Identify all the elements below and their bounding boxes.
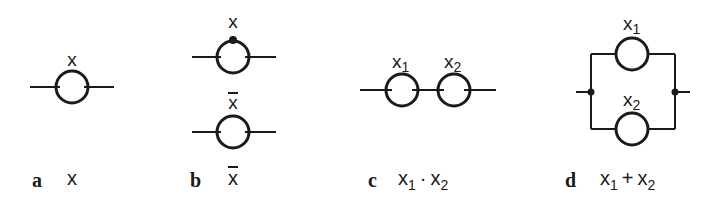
contact-label: x: [228, 92, 238, 113]
contact-x-negated: [217, 116, 249, 148]
caption-a: a: [32, 169, 42, 191]
expression-a: x: [67, 167, 77, 189]
panel-c: x1 x2 c x1·x2: [360, 51, 496, 193]
expression-c: x1·x2: [398, 167, 448, 193]
marker-dot: [229, 36, 237, 44]
junction-left: [588, 89, 595, 96]
contact-x: [217, 41, 249, 73]
panel-b: x x b x: [190, 11, 276, 191]
caption-c: c: [368, 169, 377, 191]
contact-label-x2: x2: [444, 51, 462, 75]
contact-label-x1: x1: [392, 51, 410, 75]
contact-x1: [616, 38, 648, 70]
switching-circuits-diagram: x a x x x b x x1 x2 c x1·x2: [0, 0, 720, 207]
contact-label: x: [67, 49, 77, 70]
panel-d: x1 x2 d x1+x2: [565, 13, 690, 193]
contact-label-x2: x2: [623, 89, 641, 113]
caption-b: b: [190, 169, 201, 191]
contact-x2: [616, 113, 648, 145]
expression-d: x1+x2: [600, 167, 655, 193]
contact-label-x1: x1: [623, 13, 641, 37]
contact-x: [56, 71, 88, 103]
panel-a: x a x: [30, 49, 114, 191]
junction-right: [672, 89, 679, 96]
expression-b: x: [228, 167, 238, 189]
contact-label: x: [228, 11, 238, 32]
caption-d: d: [565, 169, 576, 191]
